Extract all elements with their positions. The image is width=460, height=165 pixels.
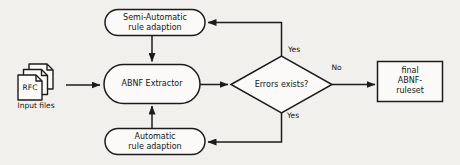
input-files-caption: Input files bbox=[17, 101, 54, 111]
edge-label-no: No bbox=[331, 63, 341, 73]
edge-label-yes-bottom: Yes bbox=[287, 111, 299, 121]
edge-label-yes-top: Yes bbox=[288, 45, 300, 55]
semi-automatic-label: Semi-Automatic rule adaption bbox=[123, 12, 187, 33]
flowchart-canvas: RFC Input files Semi-Automatic rule adap… bbox=[0, 0, 460, 165]
rfc-document-stack-icon bbox=[18, 64, 53, 100]
abnf-extractor-label: ABNF Extractor bbox=[122, 79, 183, 89]
rfc-doc-label: RFC bbox=[23, 83, 38, 93]
errors-decision-label: Errors exists? bbox=[255, 79, 309, 89]
connector-decision-yes-to-semiautomatic bbox=[208, 23, 282, 57]
final-ruleset-label: final ABNF-ruleset bbox=[385, 66, 435, 97]
automatic-label: Automatic rule adaption bbox=[128, 131, 181, 152]
connector-decision-yes-to-automatic bbox=[208, 113, 282, 142]
